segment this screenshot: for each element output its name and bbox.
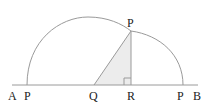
label-p-left: P	[24, 89, 31, 103]
label-p-right: P	[177, 89, 184, 103]
label-p-top: P	[127, 16, 134, 30]
arc-small	[131, 31, 183, 85]
geometry-diagram: A P Q R P B P	[0, 0, 208, 107]
label-r: R	[127, 89, 135, 103]
label-a: A	[8, 89, 17, 103]
label-q: Q	[89, 89, 98, 103]
label-b: B	[193, 89, 201, 103]
